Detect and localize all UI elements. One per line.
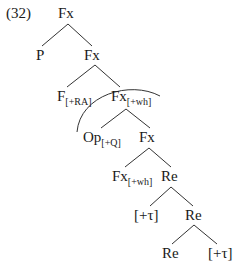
node-f-ra: F[+RA] — [57, 89, 92, 105]
node-re2: Re — [185, 208, 202, 223]
edge-re-tau — [150, 187, 171, 206]
edge-fxwh-op — [101, 109, 126, 128]
node-re3: Re — [162, 246, 179, 261]
node-fx1: Fx — [84, 48, 100, 63]
edge-fx-fra — [67, 65, 95, 87]
edge-re-re — [171, 187, 193, 206]
node-re1: Re — [161, 169, 178, 184]
edge-fx-fxwh — [95, 65, 120, 87]
example-number: (32) — [6, 6, 31, 21]
edge-root-p — [42, 24, 68, 46]
tree-edges — [0, 0, 244, 272]
edge-fx-re — [149, 148, 171, 167]
edge-fxwh-fx — [126, 109, 150, 128]
edge-fx-fxwh2 — [125, 148, 149, 167]
node-tau2: [+τ] — [208, 246, 232, 261]
edge-re-tau2 — [194, 225, 217, 244]
node-fx-wh2: Fx[+wh] — [112, 169, 152, 185]
node-op-q: Op[+Q] — [83, 130, 121, 146]
node-p: P — [36, 48, 44, 63]
edge-root-fx — [68, 24, 92, 46]
node-root: Fx — [58, 6, 74, 21]
edge-re-re3 — [172, 225, 194, 244]
node-fx-wh1: Fx[+wh] — [111, 89, 151, 105]
node-tau1: [+τ] — [134, 208, 158, 223]
node-fx2: Fx — [139, 130, 155, 145]
